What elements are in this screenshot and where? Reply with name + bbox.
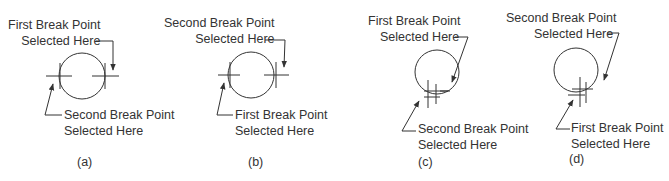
figure-d-top-label: Second Break Point Selected Here	[506, 10, 617, 42]
label-line: Selected Here	[506, 26, 617, 42]
figure-c-drawing	[402, 37, 468, 131]
label-line: First Break Point	[8, 17, 100, 33]
figure-a-caption: (a)	[77, 155, 92, 169]
figure-b-top-label: Second Break Point Selected Here	[164, 15, 275, 47]
circle-d	[554, 48, 598, 92]
label-line: Selected Here	[235, 123, 327, 139]
figure-d-bottom-label: First Break Point Selected Here	[571, 120, 663, 152]
figure-a-bottom-label: Second Break Point Selected Here	[64, 107, 175, 139]
label-line: Second Break Point	[418, 121, 529, 137]
figure-a-top-label: First Break Point Selected Here	[8, 17, 100, 49]
label-line: First Break Point	[235, 107, 327, 123]
label-line: Selected Here	[164, 31, 275, 47]
figure-d-caption: (d)	[569, 152, 584, 166]
label-line: Selected Here	[368, 29, 460, 45]
label-line: Selected Here	[64, 123, 175, 139]
label-line: Selected Here	[418, 137, 529, 153]
label-line: First Break Point	[571, 120, 663, 136]
label-line: Second Break Point	[64, 107, 175, 123]
label-line: Selected Here	[571, 136, 663, 152]
figure-c-top-label: First Break Point Selected Here	[368, 13, 460, 45]
figure-c-caption: (c)	[418, 155, 433, 169]
label-line: Second Break Point	[506, 10, 617, 26]
figure-d-drawing	[554, 33, 619, 129]
label-line: Second Break Point	[164, 15, 275, 31]
circle-c	[415, 50, 459, 94]
figure-b-drawing	[217, 40, 289, 115]
label-line: Selected Here	[8, 33, 100, 49]
figure-c-bottom-label: Second Break Point Selected Here	[418, 121, 529, 153]
label-line: First Break Point	[368, 13, 460, 29]
figure-b-caption: (b)	[248, 155, 263, 169]
figure-a-drawing	[45, 41, 119, 115]
figure-b-bottom-label: First Break Point Selected Here	[235, 107, 327, 139]
